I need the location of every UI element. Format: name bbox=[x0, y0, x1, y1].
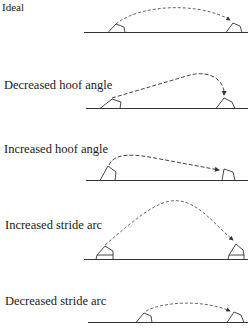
hoof-left-icon bbox=[96, 246, 113, 260]
hoof-right-icon bbox=[216, 98, 235, 109]
hoof-right-icon bbox=[222, 169, 235, 181]
flight-path bbox=[116, 8, 230, 24]
flight-path bbox=[105, 201, 233, 245]
flight-path bbox=[112, 74, 224, 98]
panel-increased-stride-arc bbox=[84, 201, 248, 260]
hoof-flight-diagram bbox=[0, 0, 248, 334]
hoof-left-icon bbox=[100, 99, 121, 109]
hoof-left-icon bbox=[100, 166, 116, 181]
hoof-right-icon bbox=[227, 312, 244, 323]
panel-ideal bbox=[84, 8, 248, 33]
panel-decreased-hoof-angle bbox=[86, 74, 248, 109]
flight-path bbox=[146, 303, 230, 311]
panel-increased-hoof-angle bbox=[86, 155, 248, 180]
flight-path bbox=[109, 155, 219, 170]
hoof-left-icon bbox=[108, 24, 125, 33]
hoof-left-icon bbox=[136, 313, 152, 323]
hoof-right-icon bbox=[226, 23, 242, 33]
panel-decreased-stride-arc bbox=[88, 303, 248, 322]
hoof-right-icon bbox=[228, 244, 244, 260]
